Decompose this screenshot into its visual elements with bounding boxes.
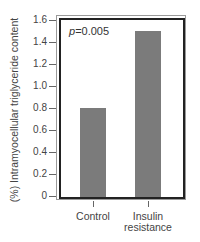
x-label-insulin-resistance: Insulin resistance — [118, 211, 178, 233]
y-tick-0: 0 — [23, 191, 47, 201]
x-label-control: Control — [68, 211, 118, 222]
y-tick-0.2: 0.2 — [23, 169, 47, 179]
bar-control — [80, 108, 106, 197]
bar-insulin-resistance — [135, 31, 161, 197]
y-axis-label: (%) Intramyocellular triglyceride conten… — [8, 0, 22, 220]
x-tick-mark — [148, 201, 149, 207]
p-value-annotation: p=0.005 — [69, 25, 109, 37]
y-tick-1.0: 1.0 — [23, 81, 47, 91]
y-tick-0.6: 0.6 — [23, 125, 47, 135]
x-tick-mark — [93, 201, 94, 207]
y-tick-1.4: 1.4 — [23, 37, 47, 47]
y-tick-1.2: 1.2 — [23, 59, 47, 69]
plot-area — [59, 18, 185, 199]
p-value: =0.005 — [75, 25, 109, 37]
y-tick-1.6: 1.6 — [23, 15, 47, 25]
x-label-line2: resistance — [118, 222, 178, 233]
y-tick-0.8: 0.8 — [23, 103, 47, 113]
y-tick-0.4: 0.4 — [23, 147, 47, 157]
